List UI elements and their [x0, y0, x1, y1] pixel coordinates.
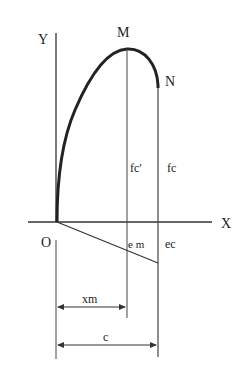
- c-label: c: [103, 330, 108, 344]
- xm-arrow-left: [57, 304, 64, 310]
- x-axis-label: X: [221, 216, 231, 231]
- stress-strain-diagram: Y X O M N fc′ fc e m ec xm c: [0, 0, 241, 367]
- c-arrow-right: [150, 342, 157, 348]
- fc-label: fc: [167, 161, 176, 175]
- em-label: e m: [128, 238, 145, 250]
- stress-curve: [57, 49, 158, 222]
- fc-prime-label: fc′: [130, 161, 142, 175]
- xm-arrow-right: [119, 304, 126, 310]
- origin-label: O: [41, 235, 51, 250]
- peak-label-m: M: [117, 25, 130, 40]
- end-label-n: N: [165, 74, 175, 89]
- c-arrow-left: [57, 342, 64, 348]
- xm-label: xm: [82, 292, 98, 306]
- ec-label: ec: [165, 237, 176, 251]
- y-axis-label: Y: [38, 32, 48, 47]
